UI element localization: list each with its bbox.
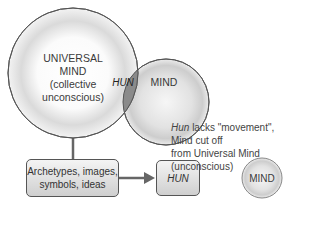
caption: Hun lacks "movement", Mind cut off from …: [171, 121, 298, 173]
hun-box-label: HUN: [167, 172, 189, 185]
mind-label: MIND: [144, 76, 184, 89]
caption-line2: from Universal Mind (unconscious): [171, 147, 298, 173]
archetypes-line1: Archetypes, images,: [27, 165, 118, 178]
hun-overlap-label: HUN: [108, 76, 138, 89]
archetypes-line2: symbols, ideas: [27, 178, 118, 191]
archetypes-box: Archetypes, images, symbols, ideas: [26, 159, 119, 197]
caption-hun: Hun: [171, 122, 189, 133]
arrow-head-icon: [144, 172, 155, 184]
universal-mind-line4: unconscious): [23, 91, 123, 104]
isolated-mind-label: MIND: [242, 172, 282, 185]
universal-mind-line1: UNIVERSAL: [23, 52, 123, 65]
